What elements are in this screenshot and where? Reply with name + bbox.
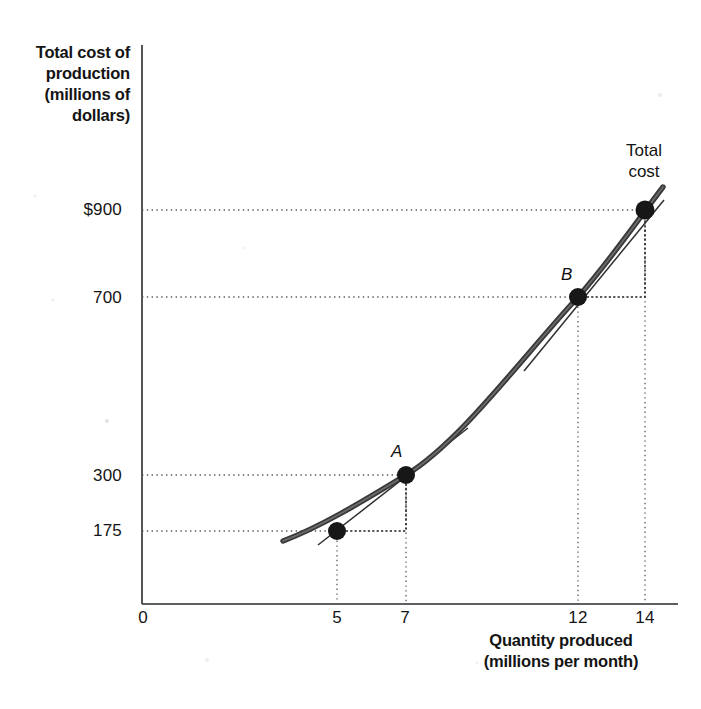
data-point-b bbox=[569, 288, 587, 306]
total-cost-curve-figure: Total cost of production (millions of do… bbox=[0, 0, 701, 709]
plot-area bbox=[0, 0, 701, 709]
data-point-14-900 bbox=[636, 201, 655, 220]
total-cost-curve bbox=[283, 187, 663, 541]
data-point-5-175 bbox=[328, 522, 346, 540]
data-point-a bbox=[397, 466, 415, 484]
total-cost-curve-highlight bbox=[283, 187, 663, 541]
tangent-line-b bbox=[524, 200, 664, 371]
